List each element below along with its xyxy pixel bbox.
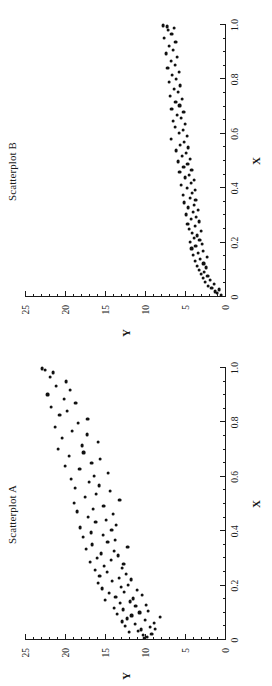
data-point — [175, 77, 178, 80]
data-point — [184, 123, 187, 126]
x-tick-label: 0.2 — [230, 580, 240, 592]
data-point — [128, 600, 131, 603]
data-point — [184, 213, 187, 216]
x-tick-minor — [223, 381, 226, 382]
data-point — [177, 132, 180, 135]
y-tick-minor — [137, 294, 138, 297]
y-tick-label: 20 — [61, 305, 71, 315]
data-point — [134, 605, 137, 608]
data-point — [145, 635, 148, 638]
y-tick-minor — [209, 294, 210, 297]
x-tick-minor — [223, 282, 226, 283]
data-point — [98, 574, 101, 577]
data-point — [168, 44, 171, 47]
y-tick-label: 0 — [221, 305, 231, 310]
data-point — [92, 507, 95, 510]
x-tick-minor — [223, 598, 226, 599]
y-tick-label: 5 — [181, 305, 191, 310]
x-tick-label: 0.4 — [230, 182, 240, 194]
x-tick-minor — [223, 435, 226, 436]
x-tick-minor — [223, 201, 226, 202]
data-point — [109, 558, 112, 561]
data-point — [191, 232, 194, 235]
x-tick-minor — [223, 489, 226, 490]
data-point — [68, 455, 71, 458]
data-point — [74, 402, 77, 405]
x-tick-minor — [223, 255, 226, 256]
y-tick-major — [105, 291, 106, 297]
data-point — [181, 194, 184, 197]
x-tick-minor — [223, 544, 226, 545]
data-point — [152, 622, 155, 625]
data-point — [153, 627, 156, 630]
data-point — [176, 160, 179, 163]
data-point — [188, 196, 191, 199]
data-point — [133, 623, 136, 626]
data-point — [117, 576, 120, 579]
data-point — [72, 502, 75, 505]
y-tick-major — [65, 291, 66, 297]
x-tick-minor — [223, 174, 226, 175]
data-point — [138, 611, 141, 614]
data-point — [202, 262, 205, 265]
y-tick-minor — [137, 637, 138, 640]
data-point — [196, 208, 199, 211]
y-tick-major — [105, 634, 106, 640]
data-point — [165, 25, 168, 28]
data-point — [71, 429, 74, 432]
data-point — [96, 582, 99, 585]
data-point — [92, 474, 95, 477]
y-tick-minor — [113, 294, 114, 297]
data-point — [172, 88, 175, 91]
data-point — [196, 234, 199, 237]
data-point — [124, 624, 127, 627]
y-tick-minor — [177, 294, 178, 297]
y-tick-minor — [169, 637, 170, 640]
x-tick-minor — [223, 38, 226, 39]
y-tick-minor — [217, 637, 218, 640]
x-tick-label: 1.0 — [230, 19, 240, 31]
y-axis-line-a — [26, 639, 226, 640]
y-tick-minor — [41, 637, 42, 640]
data-point — [193, 225, 196, 228]
y-tick-minor — [121, 637, 122, 640]
panel-title-a: Scatterplot A — [6, 343, 18, 686]
data-point — [91, 543, 94, 546]
y-tick-minor — [201, 294, 202, 297]
data-point — [106, 541, 109, 544]
data-point — [150, 632, 153, 635]
data-point — [204, 266, 207, 269]
data-point — [172, 120, 175, 123]
y-tick-minor — [41, 294, 42, 297]
y-tick-minor — [89, 294, 90, 297]
data-point — [48, 376, 51, 379]
data-point — [203, 270, 206, 273]
data-point — [76, 422, 79, 425]
data-point — [168, 94, 171, 97]
data-point — [130, 614, 133, 617]
x-axis-title-a: X — [250, 368, 262, 640]
data-point — [167, 29, 170, 32]
data-point — [111, 580, 114, 583]
data-point — [179, 143, 182, 146]
data-point — [99, 458, 102, 461]
data-point — [204, 280, 207, 283]
data-point — [80, 444, 83, 447]
data-point — [97, 484, 100, 487]
y-tick-minor — [161, 294, 162, 297]
y-tick-label: 15 — [101, 648, 111, 658]
data-point — [124, 572, 127, 575]
data-point — [115, 523, 118, 526]
data-point — [176, 56, 179, 59]
panel-scatterplot-a: Scatterplot A X Y 00.20.40.60.81.0051015… — [0, 343, 272, 686]
data-point — [186, 223, 189, 226]
data-point — [170, 33, 173, 36]
data-point — [103, 564, 106, 567]
y-tick-major — [25, 634, 26, 640]
data-point — [169, 59, 172, 62]
data-point — [192, 254, 195, 257]
figure-canvas: Scatterplot B X Y 00.20.40.60.81.0051015… — [0, 0, 272, 686]
x-tick-major — [220, 78, 226, 79]
data-point — [86, 418, 89, 421]
data-point — [177, 70, 180, 73]
